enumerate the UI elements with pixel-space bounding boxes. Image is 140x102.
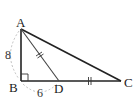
vertex-label-b: B <box>9 80 18 95</box>
vertex-label-a: A <box>16 15 26 30</box>
bd-length-label: 6 <box>37 86 43 100</box>
segment-ad <box>21 29 59 81</box>
ab-length-label: 8 <box>5 48 11 62</box>
geometry-figure: A B C D 8 6 <box>0 0 140 102</box>
right-angle-marker <box>21 74 28 81</box>
vertex-label-c: C <box>124 75 133 90</box>
side-ac <box>21 29 121 81</box>
vertex-label-d: D <box>54 81 63 96</box>
ab-measure-arc <box>11 31 20 79</box>
